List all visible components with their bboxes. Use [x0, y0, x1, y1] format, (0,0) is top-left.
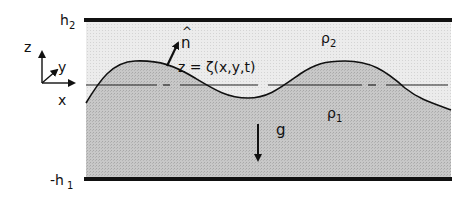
interface-equation: z = ζ(x,y,t)	[178, 59, 255, 75]
bottom-boundary-label: -h1	[50, 172, 73, 191]
top-boundary-label: h2	[60, 12, 75, 31]
axis-z-label: z	[24, 39, 31, 55]
two-layer-fluid-diagram: h2 -h1 z y x ^ n z = ζ(x,y,t) ρ2 ρ1 g	[0, 0, 473, 197]
normal-vector-label: n	[181, 34, 191, 52]
axis-x-label: x	[58, 92, 66, 108]
axis-y-label: y	[58, 59, 66, 75]
gravity-label: g	[276, 121, 286, 139]
